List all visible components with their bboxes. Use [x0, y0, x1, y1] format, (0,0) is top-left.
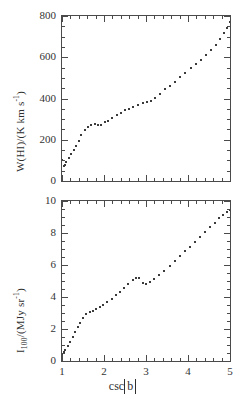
- tick-mark: [129, 16, 130, 19]
- tick-mark: [129, 358, 130, 361]
- tick-mark: [222, 178, 223, 181]
- data-point: [146, 101, 148, 103]
- data-point: [67, 345, 69, 347]
- tick-mark: [227, 289, 230, 290]
- data-point: [64, 164, 66, 166]
- axis-title-y-bottom-prefix: I: [14, 349, 26, 353]
- data-point: [85, 313, 87, 315]
- tick-mark: [62, 361, 68, 362]
- tick-mark: [205, 201, 206, 204]
- tick-mark: [146, 201, 147, 207]
- figure-container: W(HI)/(K km s-1) 0200400600800 I100/(MJy…: [0, 0, 245, 414]
- tick-mark: [87, 201, 88, 204]
- tick-mark: [227, 68, 230, 69]
- data-point: [120, 112, 122, 114]
- tick-mark: [62, 233, 68, 234]
- tick-mark: [70, 178, 71, 181]
- tick-mark: [227, 217, 230, 218]
- tick-mark: [227, 37, 230, 38]
- tick-mark: [227, 47, 230, 48]
- tick-mark: [62, 57, 68, 58]
- data-point: [190, 67, 192, 69]
- tick-mark: [227, 249, 230, 250]
- tick-mark: [62, 297, 68, 298]
- tick-mark: [96, 16, 97, 19]
- plot-frame-top: [61, 15, 231, 182]
- y-tick-label: 800: [13, 10, 56, 21]
- y-tick-label: 6: [13, 259, 56, 270]
- panel-bottom: I100/(MJy sr-1) 0246810 12345 cscb: [0, 193, 245, 393]
- tick-mark: [62, 109, 65, 110]
- tick-mark: [213, 358, 214, 361]
- tick-mark: [163, 16, 164, 19]
- tick-mark: [222, 201, 223, 204]
- tick-mark: [227, 26, 230, 27]
- y-tick-label: 600: [13, 51, 56, 62]
- tick-mark: [227, 305, 230, 306]
- tick-mark: [227, 257, 230, 258]
- data-point: [184, 250, 186, 252]
- data-point: [150, 100, 152, 102]
- tick-mark: [196, 358, 197, 361]
- tick-mark: [62, 150, 65, 151]
- tick-mark: [62, 181, 68, 182]
- data-point: [116, 114, 118, 116]
- tick-mark: [180, 201, 181, 204]
- data-point: [179, 76, 181, 78]
- tick-mark: [227, 345, 230, 346]
- tick-mark: [62, 313, 65, 314]
- axis-title-x-absolute-value: b: [124, 379, 136, 394]
- tick-mark: [121, 16, 122, 19]
- axis-title-y-bottom-subscript: 100: [20, 337, 29, 349]
- data-point: [119, 291, 121, 293]
- tick-mark: [112, 178, 113, 181]
- panel-top: W(HI)/(K km s-1) 0200400600800: [0, 0, 245, 195]
- data-point: [94, 123, 96, 125]
- data-point: [73, 149, 75, 151]
- tick-mark: [227, 313, 230, 314]
- plot-area-top: [62, 16, 230, 181]
- tick-mark: [227, 78, 230, 79]
- data-point: [74, 331, 76, 333]
- tick-mark: [227, 225, 230, 226]
- data-point: [174, 81, 176, 83]
- tick-mark: [121, 358, 122, 361]
- tick-mark: [222, 16, 223, 19]
- data-point: [92, 310, 94, 312]
- tick-mark: [224, 57, 230, 58]
- data-point: [210, 49, 212, 51]
- x-tick-label: 1: [47, 366, 77, 377]
- tick-mark: [227, 150, 230, 151]
- tick-mark: [188, 201, 189, 207]
- tick-mark: [205, 178, 206, 181]
- data-point: [84, 129, 86, 131]
- tick-mark: [171, 201, 172, 204]
- tick-mark: [62, 171, 65, 172]
- tick-mark: [62, 78, 65, 79]
- data-point: [82, 317, 84, 319]
- tick-mark: [129, 178, 130, 181]
- tick-mark: [138, 201, 139, 204]
- tick-mark: [62, 68, 65, 69]
- y-tick-label: 400: [13, 93, 56, 104]
- page-footer-text: [0, 405, 245, 414]
- data-point: [222, 214, 224, 216]
- y-tick-label: 200: [13, 134, 56, 145]
- x-tick-label: 4: [173, 366, 203, 377]
- data-point: [127, 283, 129, 285]
- tick-mark: [227, 88, 230, 89]
- data-point: [205, 54, 207, 56]
- tick-mark: [227, 160, 230, 161]
- tick-mark: [146, 16, 147, 22]
- tick-mark: [188, 175, 189, 181]
- tick-mark: [227, 353, 230, 354]
- data-point: [200, 59, 202, 61]
- y-tick-label: 0: [13, 175, 56, 186]
- tick-mark: [87, 358, 88, 361]
- axis-title-x-prefix: csc: [109, 379, 124, 393]
- tick-mark: [196, 178, 197, 181]
- tick-mark: [70, 201, 71, 204]
- data-point: [111, 117, 113, 119]
- data-point: [179, 255, 181, 257]
- data-point: [138, 277, 140, 279]
